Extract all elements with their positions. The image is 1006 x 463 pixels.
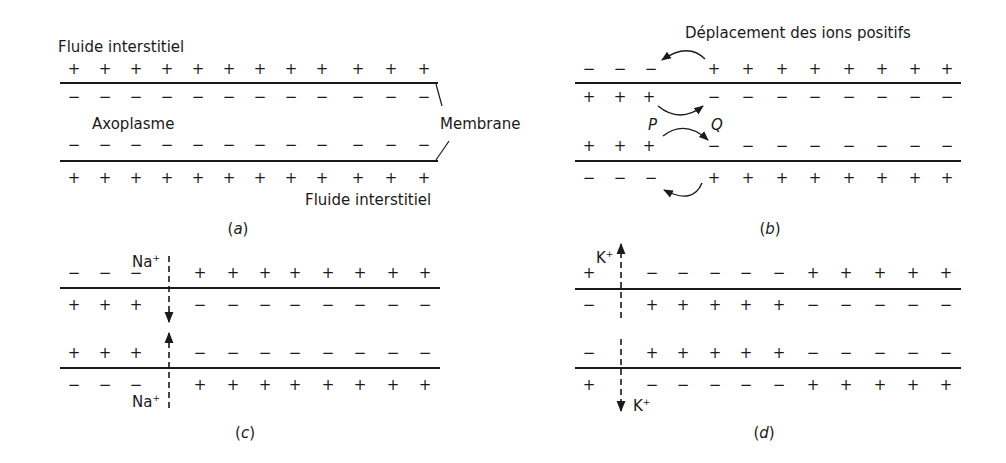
positive-charge: + (384, 171, 398, 186)
negative-charge: − (676, 266, 690, 281)
positive-charge: + (351, 62, 365, 77)
positive-charge: + (321, 378, 335, 393)
negative-charge: − (875, 139, 889, 154)
positive-charge: + (940, 62, 954, 77)
positive-charge: + (875, 171, 889, 186)
caption-paren-close: ) (249, 424, 255, 442)
negative-charge: − (645, 266, 659, 281)
positive-charge: + (875, 62, 889, 77)
positive-charge: + (645, 346, 659, 361)
negative-charge: − (353, 298, 367, 313)
negative-charge: − (875, 90, 889, 105)
negative-charge: − (67, 266, 81, 281)
positive-charge: + (160, 62, 174, 77)
negative-charge: − (321, 346, 335, 361)
positive-charge: + (351, 171, 365, 186)
positive-charge: + (353, 378, 367, 393)
negative-charge: − (582, 346, 596, 361)
membrane-leader-line (436, 84, 442, 106)
negative-charge: − (98, 378, 112, 393)
positive-charge: + (284, 62, 298, 77)
positive-charge: + (908, 62, 922, 77)
caption-paren-close: ) (243, 220, 249, 238)
label-k-ion-top: K+ (596, 250, 613, 266)
negative-charge: − (739, 378, 753, 393)
label-point-p: P (648, 118, 657, 133)
positive-charge: + (582, 139, 596, 154)
negative-charge: − (351, 90, 365, 105)
positive-charge: + (222, 171, 236, 186)
label-fluide-interstitiel-top: Fluide interstitiel (58, 40, 184, 55)
panel-b (575, 51, 961, 196)
negative-charge: − (839, 298, 853, 313)
negative-charge: − (222, 138, 236, 153)
positive-charge: + (613, 90, 627, 105)
negative-charge: − (906, 346, 920, 361)
caption-paren-close: ) (775, 220, 781, 238)
ion-symbol: Na (132, 393, 152, 411)
negative-charge: − (842, 139, 856, 154)
positive-charge: + (191, 62, 205, 77)
positive-charge: + (417, 62, 431, 77)
negative-charge: − (741, 139, 755, 154)
panel-caption-b: (b) (759, 222, 780, 237)
negative-charge: − (741, 90, 755, 105)
negative-charge: − (418, 298, 432, 313)
label-na-ion-bottom: Na+ (132, 394, 160, 410)
positive-charge: + (806, 378, 820, 393)
negative-charge: − (226, 346, 240, 361)
negative-charge: − (775, 139, 789, 154)
positive-charge: + (741, 171, 755, 186)
positive-charge: + (873, 378, 887, 393)
negative-charge: − (315, 90, 329, 105)
positive-charge: + (839, 266, 853, 281)
ion-symbol: Na (132, 253, 152, 271)
positive-charge: + (708, 346, 722, 361)
negative-charge: − (67, 90, 81, 105)
negative-charge: − (193, 346, 207, 361)
negative-charge: − (806, 298, 820, 313)
positive-charge: + (417, 171, 431, 186)
positive-charge: + (98, 62, 112, 77)
positive-charge: + (222, 62, 236, 77)
membrane-leader-line (436, 141, 449, 160)
label-na-ion-top: Na+ (132, 254, 160, 270)
positive-charge: + (582, 266, 596, 281)
negative-charge: − (226, 298, 240, 313)
positive-charge: + (98, 298, 112, 313)
panel-caption-a: (a) (228, 222, 249, 237)
negative-charge: − (842, 90, 856, 105)
label-point-q: Q (711, 118, 723, 133)
negative-charge: − (806, 346, 820, 361)
positive-charge: + (676, 346, 690, 361)
negative-charge: − (160, 90, 174, 105)
ion-symbol: K (596, 249, 606, 267)
positive-charge: + (939, 378, 953, 393)
negative-charge: − (613, 62, 627, 77)
negative-charge: − (191, 138, 205, 153)
positive-charge: + (253, 171, 267, 186)
negative-charge: − (67, 138, 81, 153)
positive-charge: + (418, 266, 432, 281)
label-k-ion-bottom: K+ (633, 398, 650, 414)
caption-paren-close: ) (769, 424, 775, 442)
arrow-inner-top-icon (658, 106, 703, 115)
negative-charge: − (908, 139, 922, 154)
negative-charge: − (582, 298, 596, 313)
negative-charge: − (707, 90, 721, 105)
positive-charge: + (418, 378, 432, 393)
positive-charge: + (193, 266, 207, 281)
positive-charge: + (191, 171, 205, 186)
negative-charge: − (417, 90, 431, 105)
negative-charge: − (67, 378, 81, 393)
negative-charge: − (707, 139, 721, 154)
positive-charge: + (642, 139, 656, 154)
positive-charge: + (842, 171, 856, 186)
negative-charge: − (288, 346, 302, 361)
negative-charge: − (353, 346, 367, 361)
negative-charge: − (384, 90, 398, 105)
panel-caption-c: (c) (235, 426, 255, 441)
positive-charge: + (67, 346, 81, 361)
positive-charge: + (613, 139, 627, 154)
negative-charge: − (939, 346, 953, 361)
